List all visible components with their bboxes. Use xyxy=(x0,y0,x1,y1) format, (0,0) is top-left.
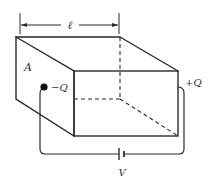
negative-charge-label: −Q xyxy=(51,82,68,93)
circuit-wire xyxy=(40,87,184,154)
arrowhead-right-icon xyxy=(112,23,118,27)
wire-right-segment xyxy=(125,87,184,154)
area-label: A xyxy=(23,61,32,74)
battery-icon xyxy=(119,148,124,160)
voltage-label: V xyxy=(118,167,127,178)
arrowhead-left-icon xyxy=(21,23,27,27)
positive-charge-label: +Q xyxy=(185,77,202,88)
hidden-edge-diagonal xyxy=(120,99,178,136)
capacitor-diagram: ℓ A −Q +Q V xyxy=(0,0,213,184)
top-right-edge xyxy=(120,37,178,71)
hidden-edges xyxy=(74,37,178,136)
length-label: ℓ xyxy=(68,19,73,32)
length-dimension: ℓ xyxy=(20,13,119,34)
